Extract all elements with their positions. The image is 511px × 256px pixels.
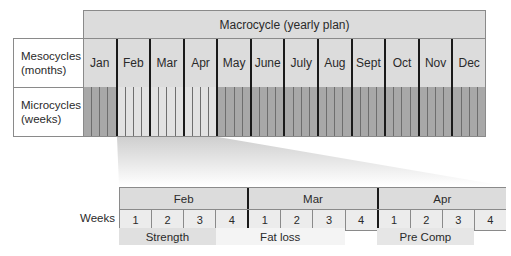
microcycles-row-label: Microcycles (weeks) — [13, 87, 84, 137]
microcycle-group-jan — [83, 87, 116, 136]
mesocycles-label-line1: Mesocycles — [21, 49, 81, 63]
microcycle-group-apr — [183, 87, 217, 136]
microcycle-week-cell — [477, 87, 485, 136]
microcycle-week-cell — [252, 87, 259, 136]
microcycle-week-cell — [435, 87, 443, 136]
microcycle-week-cell — [141, 87, 149, 136]
microcycle-week-cell — [469, 87, 477, 136]
detail-week-cell: 4 — [215, 210, 247, 230]
mesocycles-label-line2: (months) — [21, 63, 81, 77]
microcycle-week-cell — [393, 87, 401, 136]
microcycle-week-cell — [401, 87, 409, 136]
microcycle-week-cell — [91, 87, 99, 136]
detail-month-apr: Apr — [377, 188, 506, 209]
microcycle-week-cell — [99, 87, 107, 136]
month-cell-mar: Mar — [149, 39, 183, 87]
microcycle-week-cell — [420, 87, 427, 136]
microcycle-group-mar — [149, 87, 183, 136]
microcycle-week-cell — [275, 87, 283, 136]
microcycle-group-sept — [351, 87, 385, 136]
detail-month-mar: Mar — [247, 188, 376, 209]
detail-week-cell: 2 — [280, 210, 312, 230]
microcycle-week-cell — [151, 87, 158, 136]
microcycle-week-cell — [334, 87, 342, 136]
microcycle-week-cell — [185, 87, 192, 136]
microcycle-week-cell — [84, 87, 91, 136]
microcycle-week-row — [83, 87, 486, 137]
microcycle-week-cell — [301, 87, 309, 136]
microcycle-week-cell — [326, 87, 334, 136]
microcycle-week-cell — [410, 87, 418, 136]
detail-week-cell: 1 — [247, 210, 280, 230]
microcycle-week-cell — [192, 87, 200, 136]
microcycle-week-cell — [118, 87, 125, 136]
weeks-label: Weeks — [80, 208, 118, 228]
microcycle-week-cell — [461, 87, 469, 136]
microcycle-week-cell — [368, 87, 376, 136]
detail-week-cell: 2 — [151, 210, 183, 230]
microcycle-week-cell — [353, 87, 360, 136]
microcycle-group-feb — [116, 87, 150, 136]
macrocycle-title: Macrocycle (yearly plan) — [219, 18, 349, 32]
microcycle-week-cell — [133, 87, 141, 136]
phase-pre-comp: Pre Comp — [377, 228, 474, 245]
microcycle-week-cell — [107, 87, 115, 136]
detail-week-cell: 1 — [119, 210, 151, 230]
microcycle-week-cell — [386, 87, 393, 136]
microcycle-week-cell — [259, 87, 267, 136]
microcycle-week-cell — [158, 87, 166, 136]
month-cell-june: June — [250, 39, 284, 87]
microcycle-group-dec — [451, 87, 485, 136]
phase-fat-loss: Fat loss — [216, 228, 345, 245]
microcycle-week-cell — [360, 87, 368, 136]
mesocycle-month-row: JanFebMarAprMayJuneJulyAugSeptOctNovDec — [83, 38, 486, 88]
microcycle-group-oct — [384, 87, 418, 136]
month-cell-jan: Jan — [83, 39, 116, 87]
microcycle-week-cell — [166, 87, 174, 136]
microcycle-week-cell — [225, 87, 233, 136]
mesocycles-row-label: Mesocycles (months) — [13, 38, 84, 88]
microcycle-week-cell — [376, 87, 384, 136]
detail-month-row: FebMarApr — [119, 187, 506, 210]
detail-week-cell: 1 — [377, 210, 410, 230]
microcycle-week-cell — [342, 87, 350, 136]
phase-strength: Strength — [119, 228, 216, 245]
microcycle-week-cell — [242, 87, 250, 136]
microcycle-week-cell — [208, 87, 216, 136]
microcycle-week-cell — [293, 87, 301, 136]
microcycles-label-line2: (weeks) — [21, 112, 81, 126]
month-cell-dec: Dec — [451, 39, 485, 87]
microcycle-group-july — [283, 87, 317, 136]
month-cell-sept: Sept — [351, 39, 385, 87]
microcycle-week-cell — [309, 87, 317, 136]
month-cell-oct: Oct — [384, 39, 418, 87]
month-cell-apr: Apr — [183, 39, 217, 87]
microcycle-week-cell — [234, 87, 242, 136]
detail-week-cell: 4 — [474, 210, 506, 230]
detail-week-cell: 3 — [442, 210, 474, 230]
microcycle-group-june — [250, 87, 284, 136]
microcycle-week-cell — [175, 87, 183, 136]
macrocycle-header: Macrocycle (yearly plan) — [83, 10, 486, 39]
microcycle-group-nov — [418, 87, 452, 136]
microcycle-week-cell — [453, 87, 460, 136]
month-cell-nov: Nov — [418, 39, 452, 87]
detail-month-feb: Feb — [119, 188, 247, 209]
microcycle-week-cell — [218, 87, 225, 136]
detail-week-cell: 3 — [312, 210, 344, 230]
microcycle-week-cell — [319, 87, 326, 136]
detail-week-cell: 2 — [410, 210, 442, 230]
detail-week-cell: 4 — [345, 210, 377, 230]
microcycle-week-cell — [200, 87, 208, 136]
phase-row: StrengthFat lossPre Comp — [119, 228, 506, 245]
month-cell-may: May — [216, 39, 250, 87]
microcycle-group-aug — [317, 87, 351, 136]
microcycle-week-cell — [427, 87, 435, 136]
month-cell-aug: Aug — [317, 39, 351, 87]
month-cell-feb: Feb — [116, 39, 150, 87]
month-cell-july: July — [283, 39, 317, 87]
detail-table: FebMarApr 123412341234 — [119, 187, 506, 231]
microcycle-group-may — [216, 87, 250, 136]
microcycles-label-line1: Microcycles — [21, 98, 81, 112]
detail-week-cell: 3 — [183, 210, 215, 230]
